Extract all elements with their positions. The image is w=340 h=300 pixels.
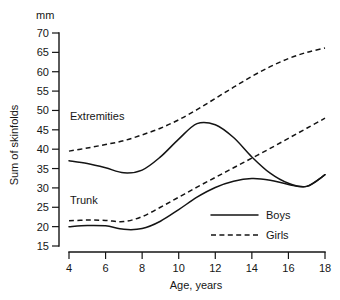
y-tick-label: 50 [37,104,49,116]
y-tick-label: 70 [37,27,49,39]
y-tick-label: 45 [37,124,49,136]
y-tick-label: 65 [37,46,49,58]
y-tick-label: 30 [37,182,49,194]
x-axis-ticks: 4681012141618 [66,252,331,274]
y-tick-label: 55 [37,85,49,97]
y-axis-ticks: 152025303540455055606570 [37,27,59,252]
x-tick-label: 12 [209,262,221,274]
x-tick-label: 8 [139,262,145,274]
skinfolds-line-chart: mm Sum of skinfolds Age, years 152025303… [0,0,340,300]
chart-legend: Boys Girls [211,209,291,241]
legend-label-girls: Girls [266,229,289,241]
y-tick-label: 35 [37,163,49,175]
x-tick-label: 16 [282,262,294,274]
y-tick-label: 25 [37,201,49,213]
series-line-trunk-girls [69,118,325,222]
x-tick-label: 6 [103,262,109,274]
chart-figure: mm Sum of skinfolds Age, years 152025303… [0,0,340,300]
y-axis-unit-label: mm [36,9,54,21]
y-tick-label: 20 [37,221,49,233]
x-tick-label: 10 [173,262,185,274]
x-tick-label: 18 [319,262,331,274]
series-layer [69,48,325,230]
y-tick-label: 15 [37,240,49,252]
legend-label-boys: Boys [266,209,291,221]
x-tick-label: 14 [246,262,258,274]
series-line-extremities-boys [69,122,325,186]
y-tick-label: 60 [37,66,49,78]
annotation-trunk: Trunk [70,194,98,206]
series-line-extremities-girls [69,48,325,151]
y-axis-title: Sum of skinfolds [8,104,20,185]
y-tick-label: 40 [37,143,49,155]
x-axis-title: Age, years [170,279,223,291]
x-tick-label: 4 [66,262,72,274]
annotation-extremities: Extremities [70,110,125,122]
